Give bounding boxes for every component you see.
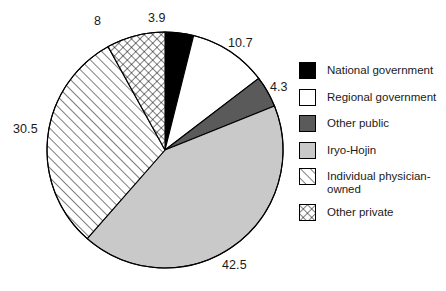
legend-label-other-private: Other private bbox=[327, 204, 393, 219]
pie-chart-plot-area: 3.9 10.7 4.3 42.5 30.5 8 bbox=[0, 0, 300, 291]
slice-label-regional-government: 10.7 bbox=[228, 36, 253, 50]
slice-label-national-government: 3.9 bbox=[148, 11, 166, 25]
slice-label-iryo-hojin: 42.5 bbox=[222, 258, 247, 272]
legend-item-iryo-hojin[interactable]: Iryo-Hojin bbox=[299, 142, 446, 160]
legend-label-national-government: National government bbox=[327, 62, 433, 77]
pie-chart-svg bbox=[0, 0, 300, 291]
legend-label-regional-government: Regional government bbox=[327, 89, 436, 104]
legend-label-individual-physician-owned: Individual physician-owned bbox=[327, 168, 446, 195]
legend-label-iryo-hojin: Iryo-Hojin bbox=[327, 142, 376, 157]
legend-swatch-regional-government bbox=[299, 89, 316, 106]
legend: National governmentRegional governmentOt… bbox=[299, 62, 446, 230]
legend-swatch-individual-physician-owned bbox=[299, 168, 316, 185]
legend-item-regional-government[interactable]: Regional government bbox=[299, 89, 446, 107]
legend-swatch-other-public bbox=[299, 115, 316, 132]
legend-swatch-national-government bbox=[299, 62, 316, 79]
legend-label-other-public: Other public bbox=[327, 115, 389, 130]
legend-item-individual-physician-owned[interactable]: Individual physician-owned bbox=[299, 168, 446, 195]
pie-slices-group bbox=[47, 32, 283, 268]
legend-item-national-government[interactable]: National government bbox=[299, 62, 446, 80]
pie-chart-figure: 3.9 10.7 4.3 42.5 30.5 8 National govern… bbox=[0, 0, 446, 291]
slice-label-other-public: 4.3 bbox=[270, 80, 288, 94]
legend-item-other-public[interactable]: Other public bbox=[299, 115, 446, 133]
slice-label-other-private: 8 bbox=[94, 14, 101, 28]
slice-label-individual-physician-owned: 30.5 bbox=[13, 122, 38, 136]
legend-swatch-other-private bbox=[299, 204, 316, 221]
legend-item-other-private[interactable]: Other private bbox=[299, 204, 446, 222]
legend-swatch-iryo-hojin bbox=[299, 142, 316, 159]
